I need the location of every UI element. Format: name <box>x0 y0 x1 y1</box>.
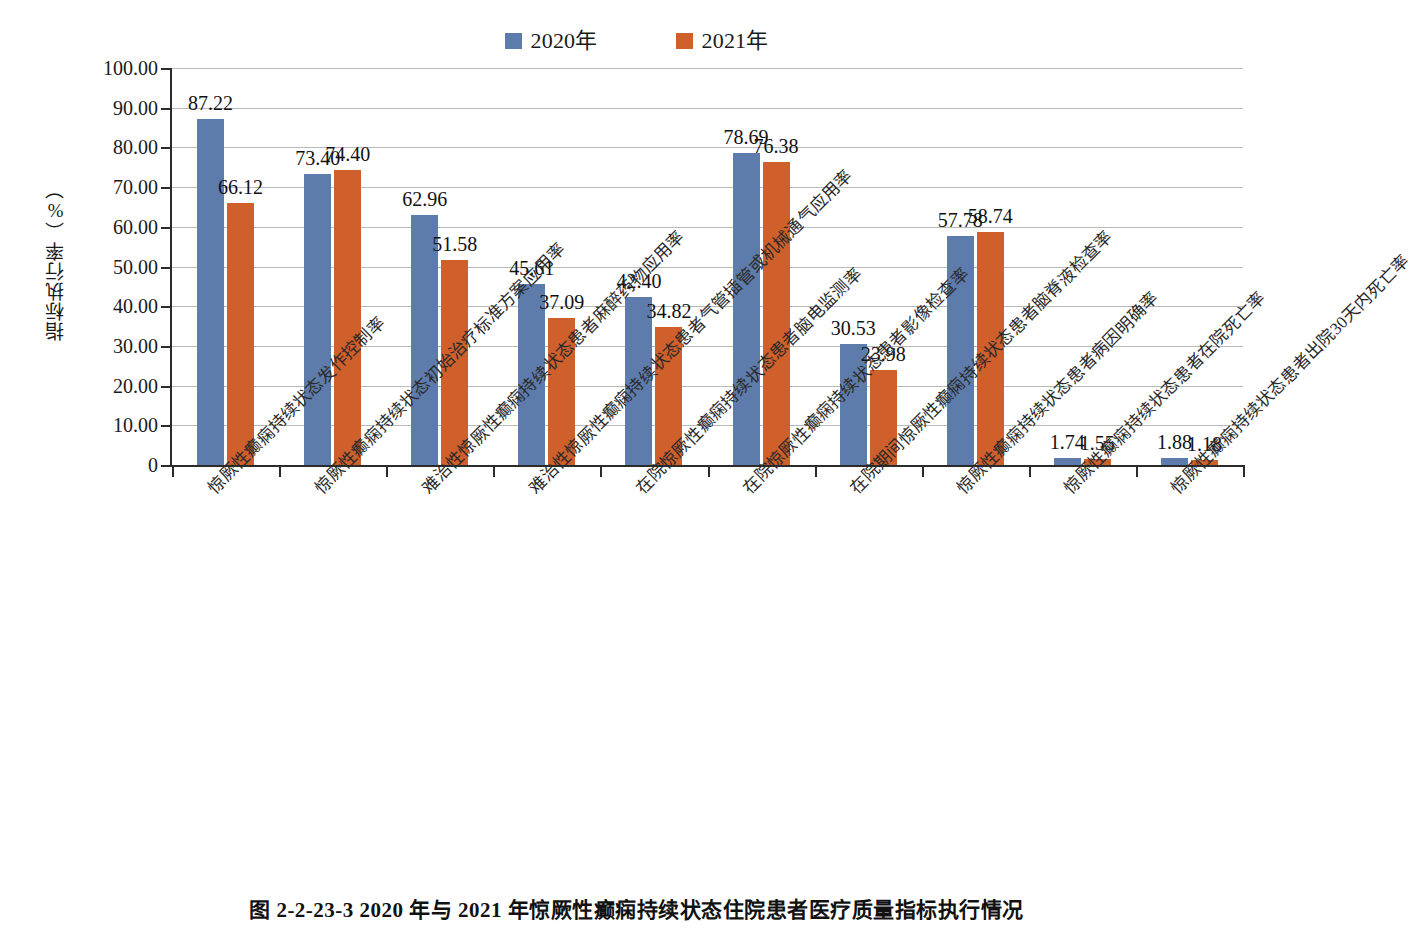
bar-2021年-1[interactable] <box>334 170 361 465</box>
y-axis-tick-label: 90.00 <box>38 98 158 118</box>
y-axis-tick-label: 0 <box>38 455 158 475</box>
bar-2021年-0[interactable] <box>227 203 254 465</box>
y-axis-tick-label: 10.00 <box>38 415 158 435</box>
y-axis-tick-label: 80.00 <box>38 137 158 157</box>
bar-value-label: 87.22 <box>171 93 251 113</box>
x-axis-tick-mark <box>493 465 495 477</box>
bar-2021年-5[interactable] <box>763 162 790 465</box>
orange-square-icon <box>676 33 693 49</box>
bar-2020年-5[interactable] <box>733 153 760 465</box>
x-axis-tick-mark <box>1136 465 1138 477</box>
bar-value-label: 74.40 <box>308 144 388 164</box>
chart-legend: 2020年 2021年 <box>0 30 1273 52</box>
bar-value-label: 76.38 <box>736 136 816 156</box>
x-axis-tick-mark <box>1243 465 1245 477</box>
y-axis-tick-label: 40.00 <box>38 296 158 316</box>
bar-value-label: 66.12 <box>201 177 281 197</box>
bar-value-label: 37.09 <box>522 292 602 312</box>
x-axis-tick-mark <box>172 465 174 477</box>
bar-2020年-1[interactable] <box>304 174 331 465</box>
x-axis-tick-mark <box>279 465 281 477</box>
blue-square-icon <box>505 33 522 49</box>
y-axis-tick-label: 60.00 <box>38 217 158 237</box>
legend-label-2021: 2021年 <box>702 30 769 52</box>
bar-2020年-0[interactable] <box>197 119 224 465</box>
x-axis-tick-mark <box>708 465 710 477</box>
y-axis-tick-label: 100.00 <box>38 58 158 78</box>
y-axis-tick-label: 30.00 <box>38 336 158 356</box>
bar-value-label: 30.53 <box>813 318 893 338</box>
x-axis-tick-mark <box>922 465 924 477</box>
y-axis-tick-label: 50.00 <box>38 257 158 277</box>
legend-label-2020: 2020年 <box>531 30 598 52</box>
bar-2020年-9[interactable] <box>1161 458 1188 465</box>
x-axis-tick-mark <box>386 465 388 477</box>
figure-caption: 图 2-2-23-3 2020 年与 2021 年惊厥性癫痫持续状态住院患者医疗… <box>0 897 1273 923</box>
y-axis-tick-label: 20.00 <box>38 376 158 396</box>
x-axis-tick-mark <box>1029 465 1031 477</box>
bar-value-label: 58.74 <box>950 206 1030 226</box>
y-axis-tick-label: 70.00 <box>38 177 158 197</box>
bar-2020年-8[interactable] <box>1054 458 1081 465</box>
bar-value-label: 62.96 <box>385 189 465 209</box>
legend-item-2021[interactable]: 2021年 <box>676 30 769 52</box>
x-axis-tick-mark <box>600 465 602 477</box>
bar-value-label: 51.58 <box>415 234 495 254</box>
x-axis-tick-mark <box>815 465 817 477</box>
legend-item-2020[interactable]: 2020年 <box>505 30 598 52</box>
